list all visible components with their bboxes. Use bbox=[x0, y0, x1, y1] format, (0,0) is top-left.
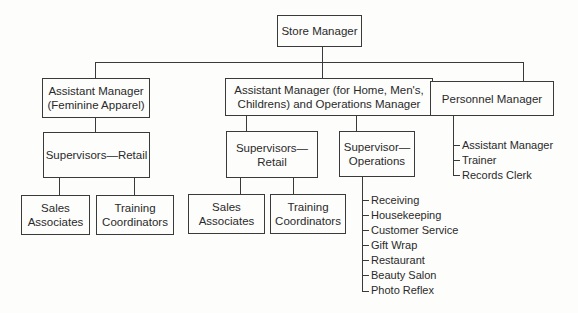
operations-staff-item: Gift Wrap bbox=[371, 239, 417, 252]
assistant-manager-feminine-box: Assistant Manager (Feminine Apparel) bbox=[42, 78, 150, 118]
training-coordinators-feminine-box: Training Coordinators bbox=[96, 195, 174, 235]
connector-fem-sup-right bbox=[134, 177, 135, 195]
operations-staff-item: Housekeeping bbox=[371, 209, 441, 222]
supervisor-operations-box: Supervisor— Operations bbox=[339, 131, 415, 177]
sales-associates-feminine-box: Sales Associates bbox=[21, 195, 90, 235]
connector-ops-sup-right bbox=[293, 177, 294, 194]
tick bbox=[363, 291, 369, 292]
operations-staff-item: Beauty Salon bbox=[371, 269, 436, 282]
supervisors-retail-ops-box: Supervisors— Retail bbox=[226, 131, 318, 178]
connector-feminine-down bbox=[95, 117, 96, 132]
tick bbox=[363, 215, 369, 216]
connector-level1-bar bbox=[95, 62, 524, 63]
operations-staff-item: Photo Reflex bbox=[371, 284, 434, 297]
store-manager-box: Store Manager bbox=[277, 15, 362, 47]
operations-staff-item: Receiving bbox=[371, 194, 419, 207]
connector-ops-right-down bbox=[356, 115, 357, 131]
connector-ops-left-down bbox=[246, 115, 247, 131]
assistant-manager-operations-box: Assistant Manager (for Home, Men's, Chil… bbox=[225, 78, 433, 116]
connector-feminine-up bbox=[95, 62, 96, 79]
tick bbox=[454, 160, 460, 161]
tick bbox=[363, 260, 369, 261]
personnel-staff-item: Assistant Manager bbox=[462, 139, 553, 152]
operations-staff-item: Customer Service bbox=[371, 224, 458, 237]
connector-operations-up bbox=[322, 62, 323, 78]
training-coordinators-ops-box: Training Coordinators bbox=[270, 194, 346, 234]
operations-staff-item: Restaurant bbox=[371, 254, 425, 267]
supervisors-retail-feminine-box: Supervisors—Retail bbox=[43, 132, 150, 178]
tick bbox=[454, 145, 460, 146]
connector-fem-sup-left bbox=[59, 177, 60, 195]
tick bbox=[363, 200, 369, 201]
tick bbox=[363, 230, 369, 231]
personnel-manager-box: Personnel Manager bbox=[430, 81, 554, 116]
connector-personnel-up bbox=[523, 62, 524, 81]
tick bbox=[363, 275, 369, 276]
sales-associates-ops-box: Sales Associates bbox=[188, 194, 265, 234]
tick bbox=[454, 175, 460, 176]
connector-root-down bbox=[322, 46, 323, 62]
personnel-staff-item: Records Clerk bbox=[462, 169, 532, 182]
connector-ops-sup-left bbox=[240, 177, 241, 194]
personnel-staff-item: Trainer bbox=[462, 154, 496, 167]
tick bbox=[363, 245, 369, 246]
